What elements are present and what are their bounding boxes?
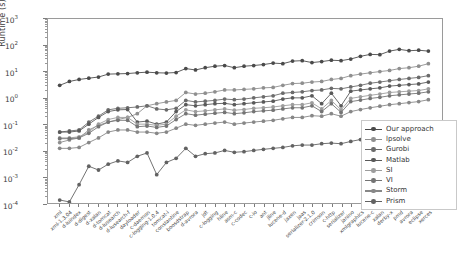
legend-item-si[interactable]: SI <box>365 165 452 175</box>
legend-item-lpsolve[interactable]: lpsolve <box>365 134 452 144</box>
legend-item-matlab[interactable]: Matlab <box>365 155 452 165</box>
figure-container: Runtime (s) 10310210110010-110-210-310-4… <box>0 0 470 271</box>
legend[interactable]: Our approachlpsolveGurobiMatlabSIVIStorm… <box>361 120 457 210</box>
legend-item-vi[interactable]: VI <box>365 175 452 185</box>
legend-label: Prism <box>386 197 405 206</box>
legend-item-storm[interactable]: Storm <box>365 186 452 196</box>
legend-marker-icon <box>365 125 382 134</box>
legend-label: Gurobi <box>386 145 409 154</box>
legend-label: Matlab <box>386 156 410 165</box>
legend-label: VI <box>386 176 393 185</box>
legend-item-our-approach[interactable]: Our approach <box>365 124 452 134</box>
legend-item-prism[interactable]: Prism <box>365 196 452 206</box>
legend-label: SI <box>386 166 393 175</box>
legend-label: lpsolve <box>386 135 411 144</box>
legend-marker-icon <box>365 186 382 195</box>
legend-item-gurobi[interactable]: Gurobi <box>365 145 452 155</box>
legend-marker-icon <box>365 176 382 185</box>
legend-marker-icon <box>365 197 382 206</box>
legend-label: Our approach <box>386 125 434 134</box>
legend-marker-icon <box>365 145 382 154</box>
legend-marker-icon <box>365 166 382 175</box>
legend-marker-icon <box>365 156 382 165</box>
legend-marker-icon <box>365 135 382 144</box>
legend-label: Storm <box>386 186 407 195</box>
